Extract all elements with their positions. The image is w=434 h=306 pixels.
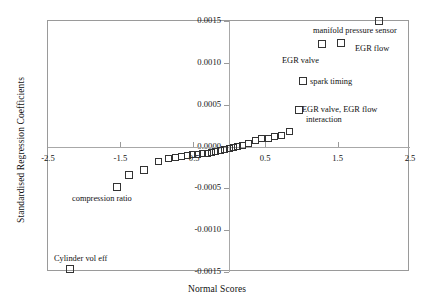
y-tick-label: 0.0015 <box>167 15 221 25</box>
y-axis-title: Standardised Regression Coefficients <box>16 45 26 255</box>
annotation-spark-timing: spark timing <box>310 77 352 87</box>
y-tick-label: 0.0005 <box>167 99 221 109</box>
y-tick-label: -0.0005 <box>167 182 221 192</box>
annotation-manifold-pressure-sensor: manifold pressure sensor <box>313 26 397 36</box>
normal-probability-plot: Standardised Regression Coefficients Nor… <box>0 0 434 306</box>
annotation-cylinder-vol-eff: Cylinder vol eff <box>54 254 107 264</box>
y-tick-mark <box>224 272 229 273</box>
x-tick-label: 1.5 <box>318 153 358 163</box>
y-tick-label: -0.0010 <box>167 224 221 234</box>
x-tick-label: 2.5 <box>390 153 430 163</box>
data-point <box>278 132 285 139</box>
annotation-interaction-line1: EGR valve, EGR flow <box>302 105 377 115</box>
data-point <box>299 77 307 85</box>
data-point <box>337 39 345 47</box>
data-point <box>140 166 148 174</box>
data-point <box>113 183 121 191</box>
data-point <box>66 265 74 273</box>
data-point <box>318 40 326 48</box>
y-tick-label: -0.0015 <box>167 266 221 276</box>
annotation-egr-valve: EGR valve <box>282 56 319 66</box>
annotation-egr-flow: EGR flow <box>355 44 389 54</box>
data-point <box>125 171 133 179</box>
data-point <box>155 158 162 165</box>
x-tick-label: -2.5 <box>28 153 68 163</box>
annotation-interaction-line2: interaction <box>306 115 342 125</box>
plot-frame: 0.00150.00100.00050.0000-0.0005-0.0010-0… <box>47 20 409 271</box>
data-point <box>165 155 172 162</box>
data-point <box>375 17 383 25</box>
data-point <box>286 128 293 135</box>
x-axis-title: Normal Scores <box>0 284 434 294</box>
x-tick-label: -1.5 <box>100 153 140 163</box>
y-tick-label: 0.0010 <box>167 57 221 67</box>
x-tick-label: 0.5 <box>245 153 285 163</box>
annotation-compression-ratio: compression ratio <box>72 194 132 204</box>
